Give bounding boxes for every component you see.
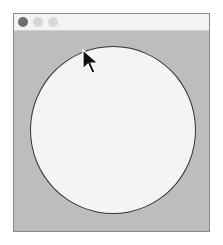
app-window: [13, 13, 210, 232]
arrow-cursor-icon: [82, 49, 100, 75]
title-bar[interactable]: [14, 14, 209, 31]
maximize-button[interactable]: [48, 17, 58, 27]
circle-shape[interactable]: [30, 46, 196, 214]
drawing-canvas[interactable]: [14, 31, 209, 231]
close-button[interactable]: [18, 17, 28, 27]
minimize-button[interactable]: [33, 17, 43, 27]
